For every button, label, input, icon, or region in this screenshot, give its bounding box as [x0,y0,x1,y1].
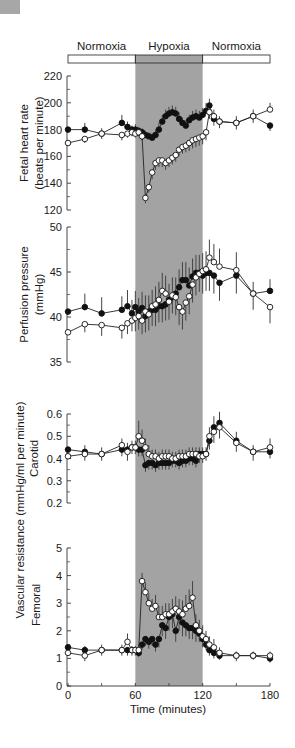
open-data-point [250,653,256,659]
x-tick-label: 0 [65,689,71,701]
phase-label: Hypoxia [148,40,190,52]
open-data-point [267,445,273,451]
filled-data-point [156,127,162,133]
filled-data-point [82,304,88,310]
y-tick-label: 200 [44,97,62,109]
open-data-point [207,433,213,439]
open-data-point [143,445,149,451]
y-axis-label: (mmHg) [33,274,45,316]
filled-data-point [153,132,159,138]
y-tick-label: 180 [44,124,62,136]
y-tick-label: 3 [56,597,62,609]
open-data-point [146,600,152,606]
open-data-point [99,451,105,457]
open-data-point [82,653,88,659]
y-tick-label: 5 [56,542,62,554]
open-data-point [119,442,125,448]
open-data-point [99,131,105,137]
filled-data-point [119,120,125,126]
phase-label: Normoxia [77,40,127,52]
y-tick-label: 1 [56,652,62,664]
open-data-point [217,119,223,125]
phase-segment-hypoxia [135,55,202,63]
y-axis-label: (beats per minute) [33,96,45,189]
y-axis-label: Vascular resistance (mmHg/ml per minute) [14,401,26,618]
filled-data-point [82,647,88,653]
filled-data-point [156,636,162,642]
y-tick-label: 2 [56,625,62,637]
phase-label: Normoxia [212,40,262,52]
open-data-point [82,321,88,327]
open-data-point [211,259,217,265]
open-data-point [143,589,149,595]
open-data-point [211,645,217,651]
y-tick-label: 160 [44,150,62,162]
open-data-point [163,291,169,297]
open-data-point [211,429,217,435]
open-data-point [143,195,149,201]
y-tick-label: 35 [50,356,62,368]
open-data-point [186,294,192,300]
open-data-point [166,299,172,305]
y-tick-label: 50 [50,221,62,233]
filled-data-point [65,645,71,651]
open-data-point [217,264,223,270]
y-tick-label: 140 [44,177,62,189]
filled-data-point [99,311,105,317]
open-data-point [99,647,105,653]
phase-bar: NormoxiaHypoxiaNormoxia [68,40,270,63]
open-data-point [190,282,196,288]
filled-data-point [173,628,179,634]
open-data-point [146,184,152,190]
filled-data-point [211,650,217,656]
y-tick-label: 0.6 [47,408,62,420]
y-axis-label: Fetal heart rate [18,104,30,182]
open-data-point [125,639,131,645]
y-axis-label: Carotid [28,440,40,477]
open-data-point [250,291,256,297]
open-data-point [234,120,240,126]
open-data-point [234,267,240,273]
open-data-point [99,322,105,328]
open-data-point [149,170,155,176]
open-data-point [203,267,209,273]
filled-data-point [163,625,169,631]
open-data-point [146,312,152,318]
open-data-point [82,451,88,457]
y-axis-label: Perfusion pressure [18,246,30,343]
y-tick-label: 45 [50,266,62,278]
open-data-point [217,650,223,656]
open-data-point [65,650,71,656]
x-tick-label: 120 [193,689,211,701]
open-data-point [267,304,273,310]
open-data-point [207,255,213,261]
open-data-point [139,438,145,444]
x-axis: 060120180 [65,683,279,701]
open-data-point [203,129,209,135]
filled-data-point [267,123,273,129]
y-tick-label: 0.3 [47,475,62,487]
open-data-point [197,628,203,634]
open-data-point [193,622,199,628]
open-data-point [65,330,71,336]
open-data-point [136,647,142,653]
physiology-time-series-chart: NormoxiaHypoxiaNormoxia 1201401601802002… [0,0,295,748]
x-tick-label: 60 [129,689,141,701]
filled-data-point [183,123,189,129]
filled-data-point [267,288,273,294]
filled-data-point [139,642,145,648]
open-data-point [125,449,131,455]
filled-data-point [173,111,179,117]
x-axis-label: Time (minutes) [130,703,206,715]
open-data-point [217,425,223,431]
phase-segment-normoxia [68,55,135,63]
open-data-point [173,152,179,158]
filled-data-point [207,103,213,109]
filled-data-point [82,127,88,133]
open-data-point [180,611,186,617]
open-data-point [250,449,256,455]
open-data-point [211,113,217,119]
filled-data-point [125,303,131,309]
filled-data-point [153,642,159,648]
y-tick-label: 0.4 [47,453,62,465]
